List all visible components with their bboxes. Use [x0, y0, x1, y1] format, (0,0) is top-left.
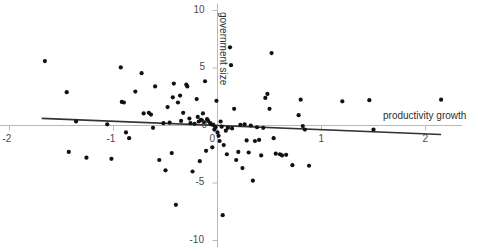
x-tick-label-2: 2	[423, 133, 429, 144]
data-point	[272, 136, 276, 140]
data-point	[236, 150, 240, 154]
x-tick-label--2: -2	[3, 133, 12, 144]
x-tick-label-1: 1	[319, 133, 325, 144]
data-point	[253, 139, 257, 143]
data-point	[43, 59, 47, 63]
data-point	[127, 136, 131, 140]
x-tick-label--1: -1	[107, 133, 116, 144]
data-point	[299, 98, 303, 102]
data-point	[307, 164, 311, 168]
data-point	[247, 150, 251, 154]
data-point	[170, 151, 174, 155]
y-tick-label-5: 5	[200, 61, 206, 72]
data-point	[188, 121, 192, 125]
data-point	[161, 121, 165, 125]
data-point	[178, 94, 182, 98]
y-tick-label--5: -5	[196, 176, 205, 187]
data-point	[174, 203, 178, 207]
data-point	[229, 63, 233, 67]
data-point	[222, 143, 226, 147]
x-tick-label-0: 0	[210, 133, 216, 144]
data-point	[259, 153, 263, 157]
data-point	[65, 90, 69, 94]
data-point	[210, 145, 214, 149]
data-point	[214, 99, 218, 103]
data-point	[139, 71, 143, 75]
data-point	[185, 84, 189, 88]
data-point	[157, 158, 161, 162]
data-point	[149, 112, 153, 116]
data-point	[261, 126, 265, 130]
data-point	[201, 111, 205, 115]
x-axis-title: productivity growth	[383, 110, 466, 121]
data-point	[219, 119, 223, 123]
data-point	[257, 138, 261, 142]
data-point	[255, 125, 259, 129]
data-point	[196, 115, 200, 119]
data-point	[340, 99, 344, 103]
data-point	[168, 121, 172, 125]
data-point	[204, 149, 208, 153]
data-point	[251, 179, 255, 183]
data-point	[171, 95, 175, 99]
data-point	[213, 125, 217, 129]
data-point	[172, 81, 176, 85]
data-point	[267, 107, 271, 111]
y-tick-label-10: 10	[194, 4, 205, 15]
data-point	[216, 134, 220, 138]
data-point	[303, 127, 307, 131]
data-point	[195, 97, 199, 101]
data-point	[109, 157, 113, 161]
data-point	[221, 213, 225, 217]
data-point	[124, 130, 128, 134]
data-point	[165, 105, 169, 109]
data-point	[84, 156, 88, 160]
data-point-group	[43, 45, 443, 217]
data-point	[284, 153, 288, 157]
data-point	[142, 111, 146, 115]
data-point	[220, 125, 224, 129]
data-point	[240, 166, 244, 170]
data-point	[105, 122, 109, 126]
data-point	[217, 139, 221, 143]
data-point	[234, 158, 238, 162]
y-tick-label-0: 0	[202, 119, 208, 130]
data-point	[371, 127, 375, 131]
data-point	[249, 123, 253, 127]
data-point	[203, 79, 207, 83]
data-point	[225, 152, 229, 156]
data-point	[187, 117, 191, 121]
data-point	[274, 152, 278, 156]
scatter-plot: -2 -1 0 1 2 10 5 0 -5 -10 productivity g…	[0, 0, 478, 252]
data-point	[290, 163, 294, 167]
data-point	[280, 153, 284, 157]
data-point	[67, 150, 71, 154]
data-point	[190, 169, 194, 173]
data-point	[181, 111, 185, 115]
data-point	[153, 84, 157, 88]
data-point	[133, 89, 137, 93]
data-point	[232, 107, 236, 111]
data-point	[122, 100, 126, 104]
data-point	[439, 98, 443, 102]
data-point	[269, 51, 273, 55]
data-point	[238, 123, 242, 127]
data-point	[226, 126, 230, 130]
data-point	[265, 92, 269, 96]
data-point	[263, 96, 267, 100]
data-point	[242, 122, 246, 126]
data-point	[193, 122, 197, 126]
y-tick-label--10: -10	[190, 234, 204, 245]
data-point	[119, 65, 123, 69]
data-point	[176, 100, 180, 104]
y-axis-title: government size	[218, 12, 229, 85]
data-point	[163, 168, 167, 172]
data-point	[198, 159, 202, 163]
data-point	[179, 119, 183, 123]
data-point	[74, 119, 78, 123]
data-point	[230, 126, 234, 130]
data-point	[245, 138, 249, 142]
plot-canvas	[0, 0, 478, 252]
data-point	[367, 98, 371, 102]
data-point	[297, 113, 301, 117]
